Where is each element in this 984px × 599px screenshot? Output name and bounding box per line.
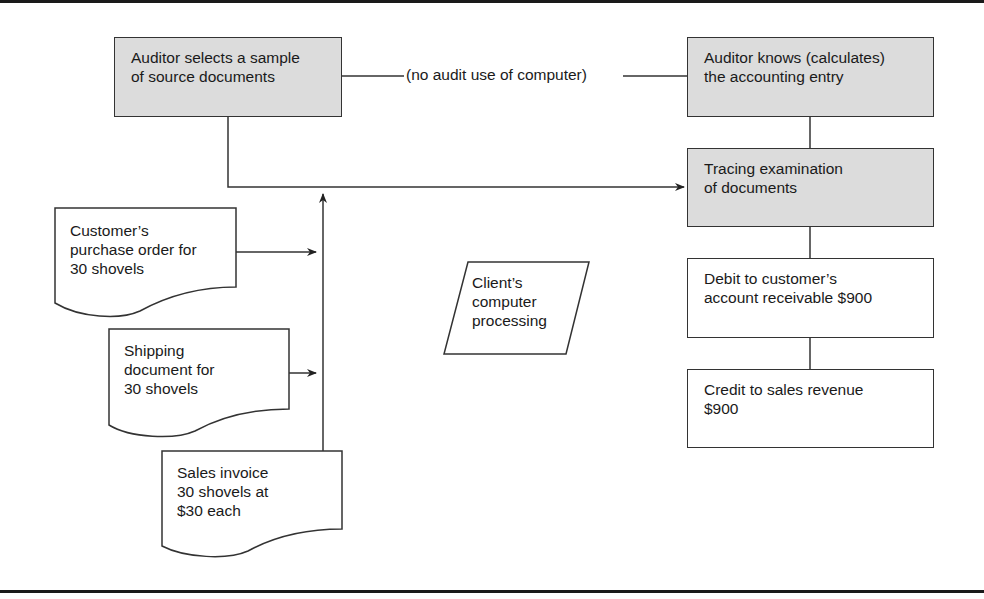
- purchase-order-document: Customer’s purchase order for 30 shovels: [70, 221, 197, 278]
- process-text-line: processing: [472, 311, 547, 330]
- no-audit-use-label: (no audit use of computer): [404, 65, 589, 84]
- document-text-line: purchase order for: [70, 240, 197, 259]
- auditor-knows-entry-box: Auditor knows (calculates) the accountin…: [687, 37, 934, 117]
- client-computer-processing: Client’s computer processing: [472, 273, 547, 330]
- sample-to-tracing-arrow: [228, 116, 684, 187]
- sales-invoice-document: Sales invoice 30 shovels at $30 each: [177, 463, 268, 520]
- tracing-examination-box: Tracing examination of documents: [687, 148, 934, 227]
- document-text-line: $30 each: [177, 501, 268, 520]
- shipping-document: Shipping document for 30 shovels: [124, 341, 214, 398]
- document-text-line: document for: [124, 360, 214, 379]
- document-text-line: Sales invoice: [177, 463, 268, 482]
- auditor-selects-sample-box: Auditor selects a sample of source docum…: [114, 37, 342, 117]
- debit-box: Debit to customer’s account receivable $…: [687, 258, 934, 338]
- box-text-line: of documents: [704, 178, 917, 197]
- box-text-line: Auditor knows (calculates): [704, 48, 917, 67]
- box-text-line: Debit to customer’s: [704, 269, 917, 288]
- process-text-line: Client’s: [472, 273, 547, 292]
- box-text-line: $900: [704, 399, 917, 418]
- box-text-line: account receivable $900: [704, 288, 917, 307]
- box-text-line: Tracing examination: [704, 159, 917, 178]
- box-text-line: Credit to sales revenue: [704, 380, 917, 399]
- document-text-line: 30 shovels at: [177, 482, 268, 501]
- process-text-line: computer: [472, 292, 547, 311]
- document-text-line: Shipping: [124, 341, 214, 360]
- credit-box: Credit to sales revenue $900: [687, 369, 934, 448]
- box-text-line: of source documents: [131, 67, 325, 86]
- document-text-line: Customer’s: [70, 221, 197, 240]
- document-text-line: 30 shovels: [70, 259, 197, 278]
- document-text-line: 30 shovels: [124, 379, 214, 398]
- box-text-line: Auditor selects a sample: [131, 48, 325, 67]
- box-text-line: the accounting entry: [704, 67, 917, 86]
